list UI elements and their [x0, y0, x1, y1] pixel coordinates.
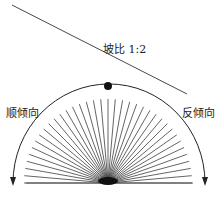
slope-line	[12, 5, 187, 94]
diagram-canvas	[0, 0, 221, 204]
right-arrowhead-icon	[202, 177, 208, 186]
left-arrowhead-icon	[10, 177, 16, 186]
slope-label: 坡比 1:2	[103, 40, 146, 56]
ray-fan	[24, 99, 192, 183]
right-direction-label: 反倾向	[182, 104, 215, 120]
top-dot	[104, 82, 112, 90]
left-direction-label: 顺倾向	[6, 104, 39, 120]
center-blob	[98, 177, 118, 185]
